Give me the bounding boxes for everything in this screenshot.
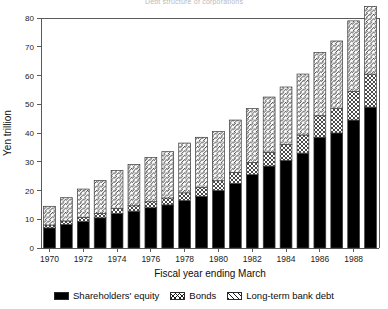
bar-segment (145, 202, 157, 208)
bar-segment (331, 41, 343, 109)
x-tick-label: 1978 (175, 254, 194, 264)
legend-swatch-equity-icon (54, 292, 69, 300)
bar-segment (297, 74, 309, 135)
bar-segment (145, 208, 157, 248)
y-tick-label: 60 (25, 72, 34, 81)
bar-segment (365, 107, 377, 248)
bar-segment (263, 166, 275, 248)
bar-segment (314, 53, 326, 116)
bar-segment (162, 152, 174, 198)
bars-group (44, 7, 377, 249)
y-axis-title: Yen trillion (2, 110, 13, 156)
legend-swatch-debt-icon (227, 292, 242, 300)
legend-label-debt: Long-term bank debt (246, 290, 334, 301)
legend-item-debt: Long-term bank debt (227, 290, 334, 301)
bar-segment (213, 181, 225, 191)
legend-label-equity: Shareholders' equity (73, 290, 159, 301)
x-axis-title: Fiscal year ending March (154, 268, 266, 279)
x-tick-label: 1974 (108, 254, 127, 264)
bar-segment (229, 183, 241, 248)
legend-item-equity: Shareholders' equity (54, 290, 159, 301)
y-tick-label: 0 (30, 244, 35, 253)
bar-segment (179, 143, 191, 193)
bar-segment (196, 137, 208, 187)
bar-segment (348, 120, 360, 248)
x-tick-label: 1976 (141, 254, 160, 264)
bar-segment (213, 191, 225, 249)
bar-segment (60, 221, 72, 224)
bar-segment (263, 152, 275, 166)
bar-segment (246, 109, 258, 163)
bar-segment (263, 97, 275, 152)
bar-segment (94, 180, 106, 213)
bar-segment (111, 170, 123, 208)
y-tick-label: 40 (25, 129, 34, 138)
x-tick-label: 1970 (40, 254, 59, 264)
bar-segment (280, 160, 292, 248)
bar-segment (77, 222, 89, 248)
bar-segment (348, 91, 360, 120)
bar-segment (297, 135, 309, 153)
bar-segment (111, 214, 123, 249)
x-tick-label: 1982 (243, 254, 262, 264)
bar-segment (128, 211, 140, 248)
bar-segment (314, 116, 326, 138)
bar-segment (77, 218, 89, 222)
chart-legend: Shareholders' equity Bonds Long-term ban… (0, 290, 388, 301)
bar-segment (331, 109, 343, 133)
legend-swatch-bonds-icon (170, 292, 185, 300)
bar-segment (280, 145, 292, 161)
y-tick-label: 30 (25, 158, 34, 167)
bar-segment (60, 198, 72, 221)
bar-segment (179, 201, 191, 248)
x-tick-label: 1986 (310, 254, 329, 264)
y-tick-label: 50 (25, 100, 34, 109)
bar-segment (44, 206, 56, 225)
chart-figure: Debt structure of corporations 010203040… (0, 0, 388, 309)
bar-segment (44, 228, 56, 248)
y-tick-label: 80 (25, 14, 34, 23)
y-tick-label: 20 (25, 187, 34, 196)
bar-segment (60, 224, 72, 248)
bar-segment (348, 21, 360, 91)
bar-segment (179, 193, 191, 201)
y-tick-label: 10 (25, 215, 34, 224)
bar-segment (196, 196, 208, 248)
bar-segment (314, 137, 326, 248)
x-axis: 1970197219741976197819801982198419861988 (40, 248, 379, 264)
bar-segment (94, 214, 106, 218)
bar-segment (365, 74, 377, 107)
bar-segment (77, 189, 89, 217)
bar-segment (94, 218, 106, 248)
bar-segment (280, 87, 292, 145)
x-tick-label: 1980 (209, 254, 228, 264)
bar-segment (196, 188, 208, 197)
y-tick-label: 70 (25, 43, 34, 52)
bar-segment (128, 206, 140, 211)
bar-segment (331, 133, 343, 248)
bar-segment (229, 172, 241, 183)
bar-segment (162, 205, 174, 248)
x-tick-label: 1972 (74, 254, 93, 264)
chart-plot-area: 01020304050607080 1970197219741976197819… (0, 0, 388, 288)
bar-segment (246, 162, 258, 174)
bar-segment (246, 175, 258, 248)
bar-segment (111, 209, 123, 214)
legend-item-bonds: Bonds (170, 290, 216, 301)
bar-segment (365, 7, 377, 75)
bar-segment (213, 132, 225, 181)
bar-segment (44, 225, 56, 228)
bar-segment (229, 120, 241, 172)
x-tick-label: 1988 (344, 254, 363, 264)
bar-segment (128, 165, 140, 206)
x-tick-label: 1984 (277, 254, 296, 264)
bar-segment (162, 198, 174, 205)
bar-segment (297, 153, 309, 248)
bar-segment (145, 157, 157, 201)
legend-label-bonds: Bonds (189, 290, 216, 301)
